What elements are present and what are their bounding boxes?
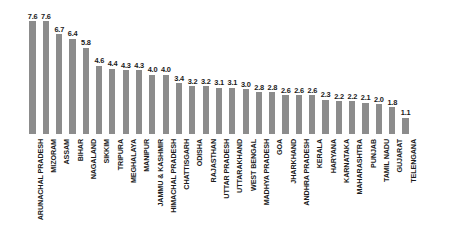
bar-group: 4.0HIMACHAL PRADESH — [159, 0, 172, 236]
bar-group: 3.2ODISHA — [186, 0, 199, 236]
bar — [269, 92, 275, 134]
bar — [216, 88, 222, 134]
bar-value-label: 4.3 — [134, 61, 144, 70]
bar-value-label: 3.4 — [174, 74, 184, 83]
bar — [362, 103, 368, 134]
bar-value-label: 3.1 — [214, 78, 224, 87]
bar-value-label: 7.6 — [41, 12, 51, 21]
bar — [43, 21, 49, 134]
bar-group: 2.6ANDHRA PRADESH — [292, 0, 305, 236]
bar-value-label: 1.1 — [401, 108, 411, 117]
bar-group: 1.8GUJARAT — [386, 0, 399, 236]
bar — [123, 70, 129, 134]
bar-group: 3.1UTTARAKHAND — [226, 0, 239, 236]
bar — [402, 118, 408, 134]
bar-group: 1.1TELENGANA — [399, 0, 412, 236]
bar-group: 3.4CHATTISGARH — [173, 0, 186, 236]
bar — [296, 95, 302, 134]
bar-value-label: 4.0 — [161, 65, 171, 74]
bar-group: 2.3HARYANA — [319, 0, 332, 236]
bar-group: 3.1UTTAR PRADESH — [212, 0, 225, 236]
bar — [389, 107, 395, 134]
bar-value-label: 2.2 — [347, 92, 357, 101]
bar — [83, 48, 89, 134]
bar — [256, 92, 262, 134]
bar-value-label: 6.4 — [68, 29, 78, 38]
bar — [96, 66, 102, 134]
bar-group: 2.8GOA — [266, 0, 279, 236]
bar — [203, 86, 209, 134]
bar-group: 2.6KERALA — [306, 0, 319, 236]
bar-group: 3.2RAJASTHAN — [199, 0, 212, 236]
bar-group: 4.6SIKKIM — [93, 0, 106, 236]
bar — [56, 34, 62, 134]
bar-group: 4.0JAMMU & KASHMIR — [146, 0, 159, 236]
bar — [336, 101, 342, 134]
bar — [29, 21, 35, 134]
bar — [69, 39, 75, 134]
bar — [136, 70, 142, 134]
bar-value-label: 4.0 — [148, 65, 158, 74]
category-label: TELENGANA — [409, 139, 418, 183]
bar-value-label: 4.3 — [121, 61, 131, 70]
bar-group: 2.6JHARKHAND — [279, 0, 292, 236]
bar — [189, 86, 195, 134]
bar-value-label: 2.6 — [281, 86, 291, 95]
bar-value-label: 3.0 — [241, 80, 251, 89]
bar-group: 7.6MIZORAM — [39, 0, 52, 236]
bar — [309, 95, 315, 134]
bar-group: 4.3MEGHALAYA — [119, 0, 132, 236]
bar-group: 2.1PUNJAB — [359, 0, 372, 236]
bar-group: 6.7ASSAM — [53, 0, 66, 236]
bar-group: 3.0WEST BENGAL — [239, 0, 252, 236]
bar-group: 2.2MAHARASHTRA — [346, 0, 359, 236]
bar-group: 2.8MADHYA PRADESH — [252, 0, 265, 236]
bar-value-label: 2.6 — [294, 86, 304, 95]
bar-group: 2.2KARNATAKA — [332, 0, 345, 236]
bar-value-label: 6.7 — [54, 25, 64, 34]
bar — [109, 69, 115, 134]
bar-value-label: 5.8 — [81, 38, 91, 47]
bar — [243, 89, 249, 134]
bar-group: 7.6ARUNACHAL PRADESH — [26, 0, 39, 236]
bar-value-label: 7.6 — [28, 12, 38, 21]
bar — [349, 101, 355, 134]
bar-value-label: 2.1 — [361, 93, 371, 102]
bar-value-label: 2.8 — [254, 83, 264, 92]
bar-group: 2.0TAMIL NADU — [372, 0, 385, 236]
bar-value-label: 3.2 — [201, 77, 211, 86]
bar-value-label: 2.3 — [321, 90, 331, 99]
bar-value-label: 2.2 — [334, 92, 344, 101]
plot-area: 7.6ARUNACHAL PRADESH7.6MIZORAM6.7ASSAM6.… — [26, 0, 446, 236]
bar-group: 4.3MANIPUR — [133, 0, 146, 236]
bar-group: 4.4TRIPURA — [106, 0, 119, 236]
bar-value-label: 4.4 — [108, 59, 118, 68]
bar — [149, 75, 155, 134]
bar-value-label: 3.1 — [228, 78, 238, 87]
bar-chart: 7.6ARUNACHAL PRADESH7.6MIZORAM6.7ASSAM6.… — [0, 0, 453, 236]
bar — [282, 95, 288, 134]
bar — [163, 75, 169, 134]
bar-group: 5.8NAGALAND — [79, 0, 92, 236]
bar — [322, 100, 328, 134]
bar-value-label: 4.6 — [94, 56, 104, 65]
bar-value-label: 2.0 — [374, 95, 384, 104]
bar — [376, 104, 382, 134]
bar — [176, 83, 182, 134]
bar — [229, 88, 235, 134]
bar-value-label: 2.6 — [308, 86, 318, 95]
bar-group: 6.4BIHAR — [66, 0, 79, 236]
bar-value-label: 3.2 — [188, 77, 198, 86]
bar-value-label: 2.8 — [268, 83, 278, 92]
bar-value-label: 1.8 — [387, 98, 397, 107]
